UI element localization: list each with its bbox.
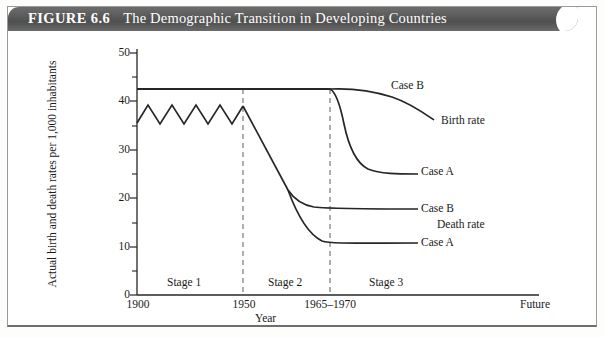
death-rate-case-a-line bbox=[288, 190, 418, 243]
y-minor-ticks bbox=[132, 77, 137, 271]
figure-title: The Demographic Transition in Developing… bbox=[123, 10, 447, 26]
chart-svg bbox=[0, 0, 605, 337]
figure-root: FIGURE 6.6The Demographic Transition in … bbox=[0, 0, 605, 337]
death-rate-fluctuation-line bbox=[137, 105, 243, 124]
death-rate-decline-line bbox=[243, 106, 288, 190]
chart-plot-area: Actual birth and death rates per 1,000 i… bbox=[0, 0, 605, 337]
figure-header-text: FIGURE 6.6The Demographic Transition in … bbox=[28, 10, 447, 27]
death-rate-case-b-line bbox=[288, 190, 418, 209]
birth-rate-case-b-line bbox=[330, 89, 434, 120]
figure-number: FIGURE 6.6 bbox=[28, 10, 110, 26]
